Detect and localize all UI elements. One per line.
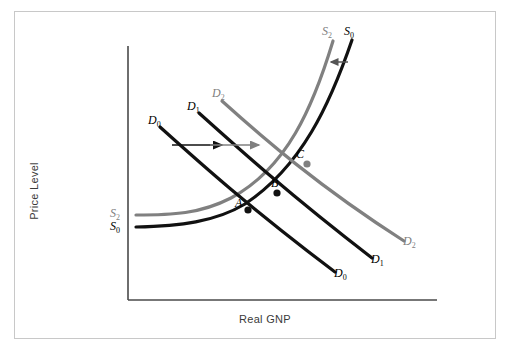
curve-label-S0-top: S0 — [344, 24, 354, 40]
curve-label-D0-text: D — [148, 113, 157, 127]
figure-screenshot: Price Level Real GNP D0 D1 D2 S0 S2 S2 S… — [0, 0, 510, 350]
point-A — [244, 206, 251, 213]
curve-label-D2-right: D2 — [403, 234, 416, 250]
curve-label-D2-right-sub: 2 — [412, 241, 416, 250]
curve-label-S0-left: S0 — [110, 219, 120, 235]
curve-label-D0-right-text: D — [334, 266, 343, 280]
point-C — [303, 160, 310, 167]
curve-label-D1-right-text: D — [371, 252, 380, 266]
curve-D0 — [160, 127, 335, 272]
demand-curves — [160, 101, 404, 272]
curve-label-D1-right-sub: 1 — [380, 259, 384, 268]
curve-label-D1: D1 — [187, 99, 200, 115]
curve-label-S0-top-sub: 0 — [350, 31, 354, 40]
curve-label-D1-text: D — [187, 99, 196, 113]
x-axis-label: Real GNP — [190, 313, 340, 325]
curve-S2 — [136, 41, 333, 215]
curve-label-D0-sub: 0 — [157, 120, 161, 129]
curve-label-D1-right: D1 — [371, 252, 384, 268]
point-label-B: B — [271, 176, 278, 191]
curve-label-D0-right: D0 — [334, 266, 347, 282]
curve-label-D2: D2 — [212, 86, 225, 102]
curve-label-S0-left-sub: 0 — [116, 226, 120, 235]
point-label-A: A — [235, 196, 242, 211]
curve-label-D1-sub: 1 — [196, 106, 200, 115]
curve-label-D0-right-sub: 0 — [343, 273, 347, 282]
curve-label-D2-sub: 2 — [221, 93, 225, 102]
y-axis-label: Price Level — [28, 131, 40, 251]
curve-D2 — [222, 101, 404, 241]
curve-label-D2-text: D — [212, 86, 221, 100]
curve-label-S2-top: S2 — [322, 24, 332, 40]
point-label-C: C — [296, 147, 304, 162]
curve-label-D2-right-text: D — [403, 234, 412, 248]
ad-as-chart — [0, 0, 510, 350]
curve-label-S2-top-sub: 2 — [328, 31, 332, 40]
curve-label-D0: D0 — [148, 113, 161, 129]
